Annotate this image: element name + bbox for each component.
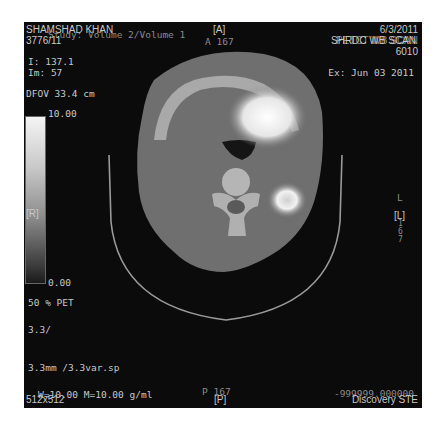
dfov: DFOV 33.4 cm [26,88,95,99]
colorbar-min: 0.00 [48,277,71,288]
side-label: L [397,192,403,203]
lateral-position: 167 [398,220,404,244]
study-description: SHRDC WB SCAN [331,35,416,46]
image-position: I: 137.1 [28,56,74,67]
slice-spacing: 3.3mm /3.3var.sp [28,362,120,373]
colorbar [25,116,46,284]
patient-id: 3776/11 [26,35,61,46]
scanner-model: Discovery STE [352,394,418,405]
orientation-anterior: [A] [213,24,225,35]
exam-date: Ex: Jun 03 2011 [328,67,414,78]
orientation-posterior: [P] [214,394,226,405]
study-number: 6010 [396,46,418,57]
pet-ct-axial-slice [24,22,422,408]
orientation-right-side: [R] [26,208,39,219]
anterior-position: A 167 [205,36,234,47]
colorbar-max: 10.00 [48,108,77,119]
pet-blend: 50 % PET [28,297,74,308]
slice-thickness: 3.3/ [28,324,51,335]
study-date: 6/3/2011 [380,24,418,35]
image-viewport[interactable]: SHAMSHAD KHAN Study: Volume 2/Volume 1 3… [24,22,422,408]
series-description: Study: Volume 2/Volume 1 [48,29,185,40]
image-number: Im: 57 [28,67,62,78]
matrix-size: 512x512 [26,394,64,405]
